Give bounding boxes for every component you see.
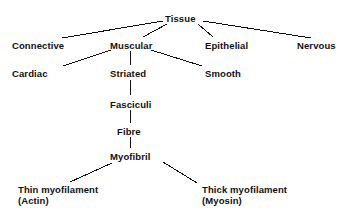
- node-label-text: Fibre: [117, 126, 141, 137]
- node-cardiac: Cardiac: [12, 68, 48, 79]
- connector-tissue-nervous: [203, 21, 311, 38]
- node-epithelial: Epithelial: [205, 40, 248, 51]
- node-smooth: Smooth: [205, 68, 241, 79]
- connector-tissue-connective: [62, 21, 163, 38]
- node-striated: Striated: [110, 68, 146, 79]
- node-sublabel-text: (Myosin): [202, 195, 287, 206]
- node-label-text: Epithelial: [205, 40, 248, 51]
- node-label-text: Cardiac: [12, 68, 48, 79]
- node-thick-myofilament: Thick myofilament(Myosin): [202, 184, 287, 206]
- node-sublabel-text: (Actin): [18, 195, 98, 206]
- node-label-text: Muscular: [110, 40, 153, 51]
- connector-myofibril-thin: [70, 163, 112, 182]
- node-label-text: Myofibril: [110, 151, 150, 162]
- connector-muscular-smooth: [151, 50, 202, 66]
- node-label-text: Smooth: [205, 68, 241, 79]
- node-label-text: Thin myofilament: [18, 184, 98, 195]
- node-tissue: Tissue: [165, 13, 196, 24]
- node-fasciculi: Fasciculi: [110, 99, 152, 110]
- node-thin-myofilament: Thin myofilament(Actin): [18, 184, 98, 206]
- node-label-text: Connective: [12, 40, 64, 51]
- connector-muscular-cardiac: [63, 50, 111, 66]
- node-label-text: Tissue: [165, 13, 196, 24]
- node-label-text: Striated: [110, 68, 146, 79]
- connector-tissue-muscular: [143, 24, 167, 37]
- node-label-text: Thick myofilament: [202, 184, 287, 195]
- node-myofibril: Myofibril: [110, 151, 150, 162]
- node-muscular: Muscular: [110, 40, 153, 51]
- tissue-hierarchy-diagram: TissueConnectiveMuscularEpithelialNervou…: [0, 0, 351, 216]
- connector-tissue-epithelial: [198, 24, 213, 37]
- node-connective: Connective: [12, 40, 64, 51]
- connector-myofibril-thick: [163, 162, 197, 183]
- node-label-text: Nervous: [297, 40, 336, 51]
- node-label-text: Fasciculi: [110, 99, 152, 110]
- node-nervous: Nervous: [297, 40, 336, 51]
- node-fibre: Fibre: [117, 126, 141, 137]
